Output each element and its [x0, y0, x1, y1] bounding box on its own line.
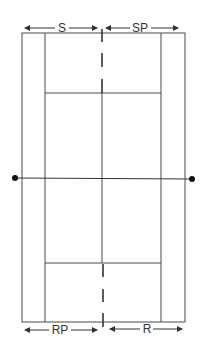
- label-rp: RP: [52, 323, 69, 337]
- label-s: S: [58, 21, 66, 35]
- arrow-r: R: [110, 322, 182, 336]
- label-r: R: [143, 322, 152, 336]
- right-net-post-dot: [189, 176, 195, 182]
- left-net-post-dot: [12, 175, 18, 181]
- label-sp: SP: [132, 21, 148, 35]
- net-line: [15, 178, 192, 179]
- arrow-rp: RP: [25, 323, 97, 337]
- tennis-court-diagram: S SP RP R: [0, 0, 202, 350]
